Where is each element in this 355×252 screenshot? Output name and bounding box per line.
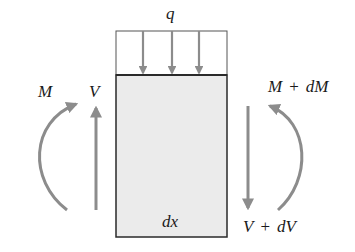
length-label: dx (162, 212, 179, 231)
load-label: q (166, 4, 175, 23)
moment-left-label: M (37, 82, 53, 101)
beam-element-diagram: q dx M V M + dM V + dV (0, 0, 355, 252)
moment-arc-right-icon (270, 106, 302, 210)
moment-arc-left-icon (39, 104, 76, 210)
right-forces: M + dM V + dV (243, 77, 329, 236)
shear-right-label: V + dV (243, 217, 298, 236)
left-forces: M V (37, 82, 102, 210)
shear-left-label: V (89, 82, 102, 101)
moment-right-label: M + dM (267, 77, 329, 96)
distributed-load: q (116, 4, 227, 75)
